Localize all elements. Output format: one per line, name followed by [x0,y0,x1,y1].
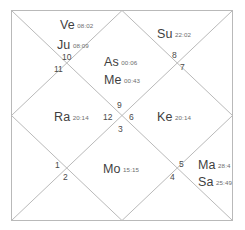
planet-mercury-abbr: Me [104,73,122,87]
planet-venus-abbr: Ve [60,18,75,32]
planet-jupiter: Ju08:09 [57,36,89,52]
house-number-12: 12 [103,113,112,122]
planet-ascendant: As00:06 [104,53,137,69]
planet-ketu: Ke20:14 [157,108,191,124]
planet-sun: Su22:02 [157,25,191,41]
chart-line-art [11,10,233,221]
planet-saturn-abbr: Sa [198,175,214,189]
planet-jupiter-abbr: Ju [57,38,70,52]
vedic-chart: 9 12 6 3 10 11 8 7 1 2 5 4 Ve08:02 Ju08:… [0,0,245,230]
planet-moon: Mo15:15 [103,160,139,176]
planet-sun-degree: 22:02 [175,31,191,38]
planet-saturn-degree: 25:49 [216,179,232,186]
planet-rahu: Ra20:14 [54,108,89,124]
planet-rahu-abbr: Ra [54,110,70,124]
house-number-3: 3 [118,125,123,134]
planet-sun-abbr: Su [157,27,173,41]
house-number-9: 9 [117,101,122,110]
planet-moon-abbr: Mo [103,162,121,176]
chart-frame [11,10,233,221]
house-number-2: 2 [63,173,68,182]
house-number-1: 1 [55,161,60,170]
planet-mercury-degree: 00:43 [124,77,140,84]
planet-venus-degree: 08:02 [77,22,93,29]
house-number-5: 5 [179,160,184,169]
planet-venus: Ve08:02 [60,16,93,32]
house-number-10: 10 [62,53,71,62]
planet-ascendant-abbr: As [104,55,119,69]
planet-ketu-degree: 20:14 [175,114,191,121]
house-number-11: 11 [54,65,63,74]
house-number-6: 6 [129,113,134,122]
house-number-8: 8 [172,51,177,60]
house-number-7: 7 [180,63,185,72]
planet-saturn: Sa25:49 [198,173,232,189]
planet-mars-degree: 28:4 [218,162,230,169]
planet-ascendant-degree: 00:06 [121,59,137,66]
planet-mars: Ma28:4 [198,156,231,172]
planet-ketu-abbr: Ke [157,110,173,124]
planet-moon-degree: 15:15 [123,166,139,173]
house-number-4: 4 [170,173,175,182]
planet-jupiter-degree: 08:09 [73,42,89,49]
planet-mercury: Me00:43 [104,71,140,87]
planet-mars-abbr: Ma [198,158,216,172]
planet-rahu-degree: 20:14 [73,114,89,121]
